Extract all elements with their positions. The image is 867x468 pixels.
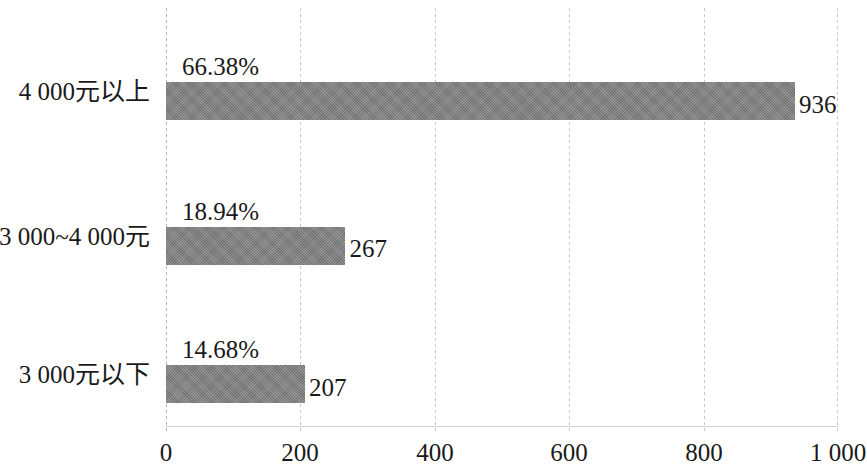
plot-area: 66.38% 18.94% 14.68% 936 267 207 <box>166 8 838 434</box>
bar-value-label: 936 <box>799 92 837 117</box>
x-tick-label: 800 <box>685 440 723 465</box>
category-axis-label: 3 000~4 000元 <box>0 224 150 249</box>
bar-series-item <box>166 227 345 265</box>
x-tick-label: 400 <box>416 440 454 465</box>
gridline-800 <box>704 8 705 434</box>
bar-percent-label: 66.38% <box>182 54 259 79</box>
category-axis-label: 3 000元以下 <box>19 362 150 387</box>
x-tick-label: 200 <box>281 440 319 465</box>
bar-chart: 66.38% 18.94% 14.68% 936 267 207 4 000元以… <box>0 0 867 468</box>
bar-value-label: 267 <box>349 236 387 261</box>
x-tick-label: 1 000 <box>810 440 866 465</box>
gridline-400 <box>435 8 436 434</box>
x-axis-line <box>166 426 838 427</box>
category-axis-label: 4 000元以上 <box>19 79 150 104</box>
bar-value-label: 207 <box>309 375 347 400</box>
bar-percent-label: 18.94% <box>182 199 259 224</box>
x-tick-label: 0 <box>160 440 173 465</box>
bar-percent-label: 14.68% <box>182 337 259 362</box>
bar-series-item <box>166 365 305 403</box>
x-tick-label: 600 <box>550 440 588 465</box>
gridline-1000 <box>837 8 838 434</box>
gridline-600 <box>569 8 570 434</box>
bar-series-item <box>166 82 795 120</box>
